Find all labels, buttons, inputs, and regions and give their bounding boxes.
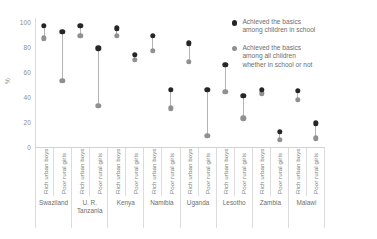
- country-label: Uganda: [187, 199, 209, 207]
- category-tick-5: Poor rural girls: [126, 148, 144, 196]
- legend-item-1[interactable]: Achieved the basics among all children w…: [232, 44, 377, 69]
- category-tick-15: Poor rural girls: [307, 148, 325, 196]
- category-tick-13: Poor rural girls: [271, 148, 289, 196]
- category-label: Rich urban boys: [186, 149, 193, 194]
- category-label: Rich urban boys: [113, 149, 120, 194]
- country-label: U. R. Tanzania: [77, 199, 103, 215]
- category-label: Poor rural girls: [312, 153, 319, 194]
- data-point-in-school: [186, 41, 191, 46]
- legend-label: Achieved the basics among children in sc…: [242, 18, 315, 35]
- country-group-5: Lesotho: [217, 196, 253, 228]
- category-tick-6: Rich urban boys: [144, 148, 162, 196]
- country-label: Kenya: [117, 199, 135, 207]
- data-point-in-school: [114, 26, 119, 31]
- y-tick-40: 40: [24, 94, 31, 101]
- y-tick-100: 100: [20, 19, 31, 26]
- legend-dot-icon: [232, 20, 237, 25]
- category-label: Rich urban boys: [258, 149, 265, 194]
- data-point-in-school: [59, 29, 64, 34]
- data-point-in-school: [241, 93, 246, 98]
- data-point-in-school: [41, 23, 46, 28]
- data-point-all-children: [168, 106, 173, 111]
- chart-legend: Achieved the basics among children in sc…: [232, 18, 377, 78]
- data-point-all-children: [241, 116, 246, 121]
- data-point-all-children: [204, 133, 209, 138]
- category-tick-1: Poor rural girls: [54, 148, 72, 196]
- category-label: Rich urban boys: [222, 149, 229, 194]
- dumbbell-connector: [207, 90, 208, 136]
- y-tick-80: 80: [24, 44, 31, 51]
- category-label: Poor rural girls: [204, 153, 211, 194]
- data-point-in-school: [78, 23, 83, 28]
- y-tick-20: 20: [24, 119, 31, 126]
- data-point-in-school: [277, 129, 282, 134]
- category-label: Rich urban boys: [77, 149, 84, 194]
- category-tick-3: Poor rural girls: [90, 148, 108, 196]
- category-tick-9: Poor rural girls: [199, 148, 217, 196]
- category-label: Poor rural girls: [276, 153, 283, 194]
- category-tick-7: Poor rural girls: [162, 148, 180, 196]
- dumbbell-connector: [98, 48, 99, 106]
- country-label: Zambia: [260, 199, 281, 207]
- data-point-in-school: [295, 88, 300, 93]
- data-point-all-children: [223, 89, 228, 94]
- category-label: Rich urban boys: [149, 149, 156, 194]
- data-point-all-children: [277, 137, 282, 142]
- country-axis: SwazilandU. R. TanzaniaKenyaNamibiaUgand…: [35, 196, 325, 228]
- country-group-7: Malawi: [289, 196, 325, 228]
- data-point-all-children: [313, 136, 318, 141]
- country-group-4: Uganda: [181, 196, 217, 228]
- country-label: Swaziland: [39, 199, 68, 207]
- legend-dot-icon: [232, 46, 237, 51]
- dumbbell-connector: [225, 65, 226, 93]
- category-tick-12: Rich urban boys: [253, 148, 271, 196]
- data-point-all-children: [295, 97, 300, 102]
- data-point-all-children: [114, 33, 119, 38]
- y-tick-0: 0: [27, 144, 31, 151]
- data-point-in-school: [313, 121, 318, 126]
- category-tick-4: Rich urban boys: [108, 148, 126, 196]
- country-group-1: U. R. Tanzania: [72, 196, 108, 228]
- category-label: Poor rural girls: [95, 153, 102, 194]
- data-point-all-children: [186, 59, 191, 64]
- legend-label: Achieved the basics among all children w…: [242, 44, 312, 69]
- data-point-all-children: [41, 36, 46, 41]
- data-point-all-children: [96, 103, 101, 108]
- data-point-in-school: [132, 52, 137, 57]
- data-point-all-children: [78, 33, 83, 38]
- country-label: Namibia: [150, 199, 173, 207]
- y-axis-label: %: [4, 78, 11, 84]
- category-label: Poor rural girls: [240, 153, 247, 194]
- country-group-0: Swaziland: [35, 196, 72, 228]
- legend-item-0[interactable]: Achieved the basics among children in sc…: [232, 18, 377, 35]
- plot-area: 020406080100: [35, 22, 210, 147]
- category-tick-8: Rich urban boys: [181, 148, 199, 196]
- country-label: Malawi: [296, 199, 316, 207]
- data-point-in-school: [150, 33, 155, 38]
- country-group-6: Zambia: [253, 196, 289, 228]
- y-tick-60: 60: [24, 69, 31, 76]
- data-point-in-school: [96, 46, 101, 51]
- category-axis: Rich urban boysPoor rural girlsRich urba…: [35, 148, 325, 196]
- category-label: Poor rural girls: [131, 153, 138, 194]
- country-group-2: Kenya: [108, 196, 144, 228]
- data-point-all-children: [132, 57, 137, 62]
- category-label: Poor rural girls: [167, 153, 174, 194]
- category-tick-0: Rich urban boys: [35, 148, 54, 196]
- category-tick-10: Rich urban boys: [217, 148, 235, 196]
- category-tick-2: Rich urban boys: [72, 148, 90, 196]
- data-point-all-children: [59, 78, 64, 83]
- category-label: Rich urban boys: [41, 149, 48, 194]
- category-tick-11: Poor rural girls: [235, 148, 253, 196]
- category-label: Poor rural girls: [59, 153, 66, 194]
- data-point-in-school: [168, 87, 173, 92]
- data-point-all-children: [150, 48, 155, 53]
- country-label: Lesotho: [223, 199, 246, 207]
- data-point-in-school: [204, 87, 209, 92]
- dumbbell-connector: [62, 32, 63, 81]
- data-point-in-school: [223, 62, 228, 67]
- category-tick-14: Rich urban boys: [289, 148, 307, 196]
- category-label: Rich urban boys: [294, 149, 301, 194]
- dumbbell-chart: % 020406080100 Rich urban boysPoor rural…: [0, 0, 377, 239]
- country-group-3: Namibia: [144, 196, 180, 228]
